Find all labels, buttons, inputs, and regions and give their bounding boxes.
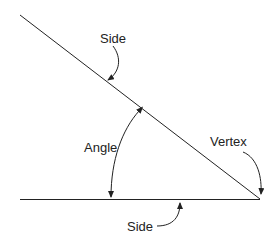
label-vertex: Vertex bbox=[210, 135, 247, 148]
side-bottom-arrow bbox=[157, 203, 180, 226]
side-top-arrow bbox=[108, 46, 119, 80]
angle-diagram bbox=[0, 0, 278, 244]
label-side-bottom: Side bbox=[127, 220, 153, 233]
label-angle: Angle bbox=[84, 141, 117, 154]
ray-top-side bbox=[20, 15, 260, 199]
label-side-top: Side bbox=[100, 32, 126, 45]
